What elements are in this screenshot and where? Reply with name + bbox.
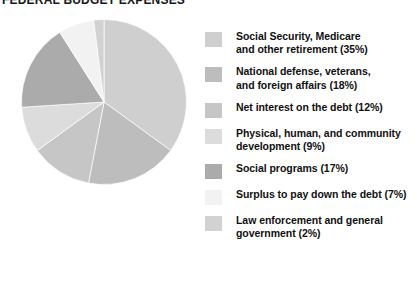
legend-label-line1: Social Security, Medicare [236,30,361,42]
legend-item-social-programs[interactable]: Social programs (17%) [205,162,416,179]
legend-label-line2: government (2%) [236,227,320,239]
legend-item-national-defense[interactable]: National defense, veterans, and foreign … [205,65,416,91]
pie-chart-svg [21,19,187,185]
legend-label-law-enforcement: Law enforcement and general government (… [236,214,383,240]
legend-label-line1: Social programs (17%) [236,162,348,174]
legend-label-line1: Physical, human, and community [236,127,401,139]
legend-label-line1: Law enforcement and general [236,214,383,226]
legend-swatch-net-interest [205,103,222,118]
legend-swatch-law-enforcement [205,216,222,231]
legend-label-physical-human-community: Physical, human, and community developme… [236,127,401,153]
legend-label-line1: National defense, veterans, [236,65,371,77]
legend-label-social-programs: Social programs (17%) [236,162,348,175]
legend-label-social-security: Social Security, Medicare and other reti… [236,30,368,56]
legend-label-line2: and foreign affairs (18%) [236,79,357,91]
legend-item-social-security[interactable]: Social Security, Medicare and other reti… [205,30,416,56]
legend-label-line2: and other retirement (35%) [236,43,368,55]
legend-item-law-enforcement[interactable]: Law enforcement and general government (… [205,214,416,240]
legend-label-net-interest: Net interest on the debt (12%) [236,101,383,114]
legend-item-physical-human-community[interactable]: Physical, human, and community developme… [205,127,416,153]
legend-item-surplus[interactable]: Surplus to pay down the debt (7%) [205,188,416,205]
legend-swatch-surplus [205,190,222,205]
legend-label-line1: Net interest on the debt (12%) [236,101,383,113]
legend-label-line2: development (9%) [236,140,325,152]
chart-legend: Social Security, Medicare and other reti… [205,30,416,250]
legend-label-national-defense: National defense, veterans, and foreign … [236,65,371,91]
legend-label-line1: Surplus to pay down the debt (7%) [236,188,406,200]
legend-swatch-national-defense [205,67,222,82]
pie-chart [21,19,187,185]
legend-label-surplus: Surplus to pay down the debt (7%) [236,188,406,201]
legend-swatch-social-security [205,32,222,47]
legend-swatch-physical-human-community [205,129,222,144]
page-title: FEDERAL BUDGET EXPENSES [2,0,185,7]
legend-swatch-social-programs [205,164,222,179]
legend-item-net-interest[interactable]: Net interest on the debt (12%) [205,101,416,118]
pie-slice-group [21,20,186,185]
